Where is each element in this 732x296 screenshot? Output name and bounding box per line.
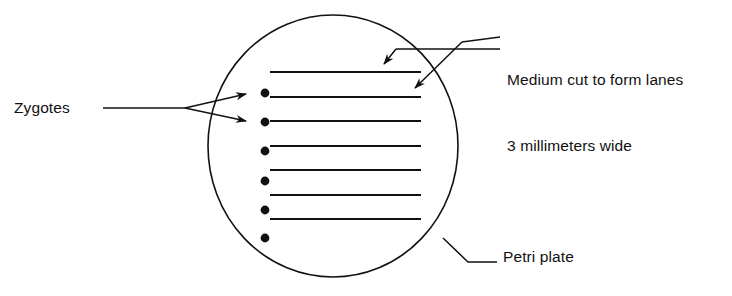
zygotes-leader-arrow-lower xyxy=(185,108,246,121)
medium-leader-lower xyxy=(415,37,500,88)
medium-cut-label-line1: Medium cut to form lanes xyxy=(507,69,683,91)
petri-plate-leader-path xyxy=(443,238,497,262)
zygote-dot xyxy=(261,206,270,215)
petri-plate-diagram: Zygotes Medium cut to form lanes 3 milli… xyxy=(0,0,732,296)
medium-leader-upper-arrow xyxy=(384,49,396,64)
petri-plate-label: Petri plate xyxy=(503,246,574,268)
zygote-dot xyxy=(261,118,270,127)
zygote-dot xyxy=(261,177,270,186)
lane-group xyxy=(270,72,421,219)
zygote-dot xyxy=(261,89,270,98)
medium-cut-label: Medium cut to form lanes 3 millimeters w… xyxy=(507,25,683,201)
zygotes-leader xyxy=(103,94,246,121)
petri-plate-leader xyxy=(443,238,497,262)
zygotes-leader-arrow-upper xyxy=(185,94,246,108)
zygote-group xyxy=(261,89,270,243)
medium-cut-label-line2: 3 millimeters wide xyxy=(507,135,683,157)
zygotes-label: Zygotes xyxy=(14,97,70,119)
zygote-dot xyxy=(261,147,270,156)
medium-leader-lower-stem xyxy=(462,37,500,42)
zygote-dot xyxy=(261,234,270,243)
